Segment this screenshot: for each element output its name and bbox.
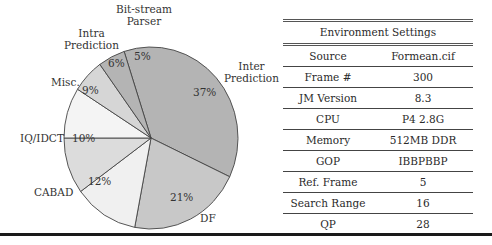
label-iq-idct: IQ/IDCT	[20, 132, 64, 144]
pct-intra: 6%	[108, 57, 125, 69]
row-value: 300	[373, 67, 473, 87]
table-row: CPUP4 2.8G	[283, 109, 473, 130]
row-key: JM Version	[283, 88, 373, 108]
bottom-rule	[0, 233, 492, 236]
row-value: 512MB DDR	[373, 130, 473, 150]
pct-inter: 37%	[193, 86, 216, 98]
pct-iq-idct: 10%	[72, 132, 95, 144]
pct-bitstream: 5%	[134, 50, 151, 62]
row-key: CPU	[283, 109, 373, 129]
label-intra-prediction: Intra Prediction	[64, 27, 119, 51]
label-df: DF	[200, 212, 216, 224]
table-row: Memory512MB DDR	[283, 130, 473, 151]
label-bitstream-parser: Bit-stream Parser	[116, 3, 172, 27]
pie-chart	[0, 0, 260, 240]
label-line: Parser	[116, 15, 172, 27]
row-value: 5	[373, 172, 473, 192]
label-line: Bit-stream	[116, 3, 172, 15]
environment-settings-table: Environment Settings SourceFormean.cifFr…	[283, 19, 473, 235]
pct-misc: 9%	[82, 84, 99, 96]
table-row: SourceFormean.cif	[283, 46, 473, 67]
table-row: QP28	[283, 214, 473, 235]
label-line: Inter	[224, 60, 279, 72]
table-title: Environment Settings	[283, 22, 473, 43]
label-line: Prediction	[224, 72, 279, 84]
row-key: Frame #	[283, 67, 373, 87]
row-value: IBBPBBP	[373, 151, 473, 171]
table-row: Search Range16	[283, 193, 473, 214]
row-value: Formean.cif	[373, 46, 473, 66]
table-row: Frame #300	[283, 67, 473, 88]
row-key: Memory	[283, 130, 373, 150]
label-cabad: CABAD	[34, 186, 73, 198]
label-inter-prediction: Inter Prediction	[224, 60, 279, 84]
row-value: 28	[373, 214, 473, 234]
row-value: P4 2.8G	[373, 109, 473, 129]
table-body: SourceFormean.cifFrame #300JM Version8.3…	[283, 46, 473, 235]
table-row: GOPIBBPBBP	[283, 151, 473, 172]
pct-df: 21%	[170, 191, 193, 203]
pct-cabad: 12%	[88, 175, 111, 187]
row-value: 16	[373, 193, 473, 213]
row-key: GOP	[283, 151, 373, 171]
label-misc: Misc.	[51, 76, 80, 88]
row-key: Ref. Frame	[283, 172, 373, 192]
row-value: 8.3	[373, 88, 473, 108]
label-line: Intra	[64, 27, 119, 39]
row-key: QP	[283, 214, 373, 234]
table-row: Ref. Frame5	[283, 172, 473, 193]
row-key: Source	[283, 46, 373, 66]
row-key: Search Range	[283, 193, 373, 213]
label-line: Prediction	[64, 39, 119, 51]
table-row: JM Version8.3	[283, 88, 473, 109]
